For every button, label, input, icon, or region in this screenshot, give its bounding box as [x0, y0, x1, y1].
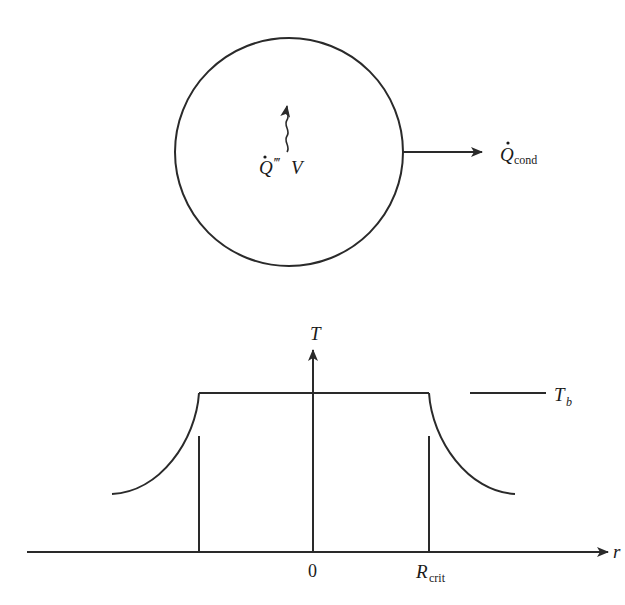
- tb-label-sub: b: [566, 395, 572, 409]
- right-decay-curve: [429, 393, 515, 494]
- sphere-diagram: Q ‴ V Q cond: [175, 38, 537, 266]
- rcrit-label-r: R: [415, 561, 428, 582]
- generation-label: Q ‴ V: [259, 155, 305, 178]
- tb-label: T b: [554, 384, 572, 409]
- sphere-circle: [175, 38, 403, 266]
- generation-label-v: V: [291, 157, 305, 178]
- left-decay-curve: [112, 393, 199, 494]
- conduction-label: Q cond: [500, 141, 537, 167]
- diagram-canvas: Q ‴ V Q cond r T T b: [0, 0, 625, 605]
- tb-label-t: T: [554, 384, 566, 405]
- t-axis-label: T: [310, 323, 322, 344]
- rcrit-label: R crit: [415, 561, 446, 585]
- generation-label-q: Q: [259, 157, 273, 178]
- conduction-label-q: Q: [500, 144, 514, 165]
- origin-label: 0: [308, 561, 317, 581]
- r-axis-label: r: [613, 541, 621, 562]
- rcrit-label-sub: crit: [429, 571, 446, 585]
- generation-wavy-arrow: [286, 106, 288, 152]
- temperature-profile: r T T b 0 R crit: [27, 323, 621, 585]
- conduction-label-sub: cond: [514, 153, 537, 167]
- generation-label-primes: ‴: [273, 155, 281, 171]
